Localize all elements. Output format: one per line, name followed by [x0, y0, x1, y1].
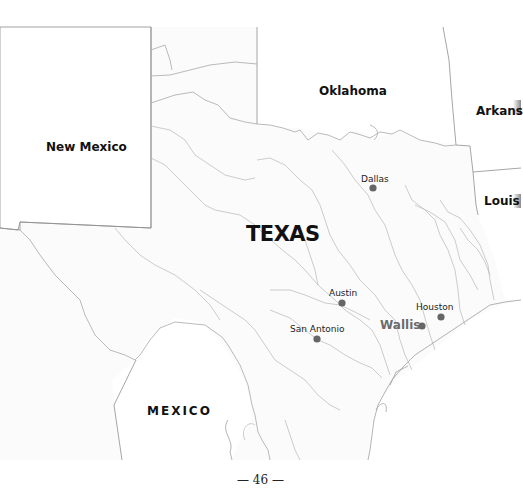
- city-label-dallas: Dallas: [361, 174, 389, 184]
- region-label-mexico: MEXICO: [147, 404, 212, 418]
- region-label-louisiana: Louis: [484, 194, 520, 208]
- region-label-new-mexico: New Mexico: [46, 140, 127, 154]
- louisiana-region: [473, 168, 521, 300]
- san-antonio-dot: [313, 335, 320, 342]
- region-label-arkansas: Arkans: [476, 104, 523, 118]
- city-label-austin: Austin: [329, 288, 357, 298]
- dallas-dot: [369, 184, 376, 191]
- city-label-wallis: Wallis: [380, 318, 420, 332]
- city-label-san-antonio: San Antonio: [290, 324, 344, 334]
- mexico-region: [112, 318, 252, 460]
- arkansas-region: [443, 27, 521, 172]
- houston-dot: [437, 313, 444, 320]
- page-number: — 46 —: [0, 473, 521, 487]
- city-label-houston: Houston: [416, 302, 453, 312]
- region-label-oklahoma: Oklahoma: [319, 84, 387, 98]
- austin-dot: [338, 299, 345, 306]
- new-mexico-region: [0, 27, 151, 230]
- main-state-label-texas: TEXAS: [246, 222, 320, 246]
